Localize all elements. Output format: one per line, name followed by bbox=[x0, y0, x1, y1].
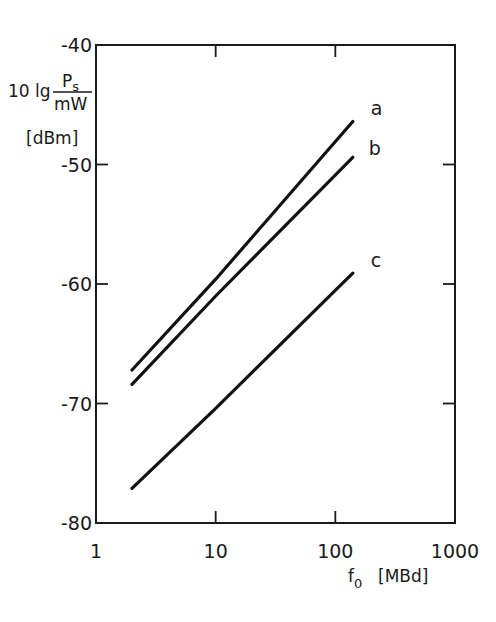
curve-label-b: b bbox=[369, 137, 381, 159]
xlabel-unit: [MBd] bbox=[378, 566, 428, 586]
curve-a bbox=[132, 122, 353, 371]
y-tick-label: -70 bbox=[61, 393, 92, 415]
ylabel-numerator: Ps bbox=[62, 71, 79, 94]
curve-label-a: a bbox=[371, 97, 383, 119]
x-tick-label: 100 bbox=[317, 540, 353, 562]
xlabel-main: f0 bbox=[348, 566, 362, 591]
curves: abc bbox=[132, 97, 382, 488]
curve-label-c: c bbox=[371, 249, 381, 271]
y-tick-label: -80 bbox=[61, 512, 92, 534]
tick-labels: 1101001000-40-50-60-70-80 bbox=[61, 34, 479, 562]
y-tick-label: -60 bbox=[61, 273, 92, 295]
y-axis-label: 10 lg Ps mW [dBm] bbox=[8, 71, 92, 148]
y-tick-label: -40 bbox=[61, 34, 92, 56]
plot-frame bbox=[96, 45, 455, 523]
curve-b bbox=[132, 157, 353, 384]
x-axis-label: f0 [MBd] bbox=[348, 566, 428, 591]
x-tick-label: 1000 bbox=[431, 540, 479, 562]
curve-c bbox=[132, 273, 353, 488]
ylabel-prefix: 10 lg bbox=[8, 81, 51, 101]
ylabel-unit: [dBm] bbox=[26, 128, 78, 148]
y-tick-label: -50 bbox=[61, 154, 92, 176]
ylabel-denominator: mW bbox=[54, 94, 88, 114]
x-tick-label: 10 bbox=[204, 540, 228, 562]
axis-ticks bbox=[96, 45, 455, 523]
x-tick-label: 1 bbox=[90, 540, 102, 562]
chart: 1101001000-40-50-60-70-80 abc 10 lg Ps m… bbox=[0, 0, 496, 622]
